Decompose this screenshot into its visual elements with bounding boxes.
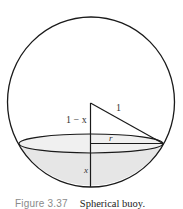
label-radius-r: r [109, 134, 113, 143]
caption-title: Spherical buoy. [80, 198, 145, 209]
label-hypotenuse-one: 1 [116, 103, 121, 113]
caption-figure-number: Figure 3.37 [15, 198, 68, 209]
buoy-diagram [0, 0, 183, 209]
spherical-buoy-figure: 1 − x 1 r x Figure 3.37Spherical buoy. [0, 0, 183, 209]
label-one-minus-x: 1 − x [66, 115, 87, 125]
figure-caption: Figure 3.37Spherical buoy. [15, 194, 145, 209]
label-depth-x: x [84, 166, 88, 175]
